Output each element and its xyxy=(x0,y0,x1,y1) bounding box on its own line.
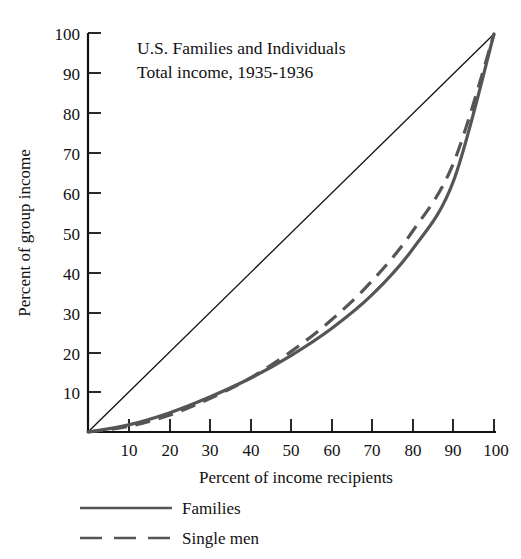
x-axis-ticks xyxy=(129,419,494,432)
x-tick-label: 40 xyxy=(243,441,260,460)
x-tick-label: 50 xyxy=(283,441,300,460)
y-axis-title: Percent of group income xyxy=(15,149,34,317)
x-tick-label: 100 xyxy=(483,441,509,460)
equality-line xyxy=(88,34,494,432)
x-axis-tick-labels: 10 20 30 40 50 60 70 80 90 100 xyxy=(121,441,509,460)
chart-title-block: U.S. Families and Individuals Total inco… xyxy=(137,38,346,82)
y-axis-ticks xyxy=(88,33,101,392)
chart-subtitle: Total income, 1935-1936 xyxy=(137,62,313,82)
chart-title: U.S. Families and Individuals xyxy=(137,38,346,58)
x-tick-label: 10 xyxy=(121,441,138,460)
y-tick-label: 80 xyxy=(63,105,80,124)
y-tick-label: 60 xyxy=(63,185,80,204)
x-tick-label: 30 xyxy=(202,441,219,460)
y-tick-label: 50 xyxy=(63,225,80,244)
x-tick-label: 80 xyxy=(405,441,422,460)
x-tick-label: 70 xyxy=(364,441,381,460)
y-tick-label: 70 xyxy=(63,145,80,164)
x-tick-label: 60 xyxy=(324,441,341,460)
y-tick-label: 100 xyxy=(55,25,81,44)
y-tick-label: 20 xyxy=(63,345,80,364)
lorenz-curve-figure: 100 90 80 70 60 50 40 30 20 10 10 xyxy=(0,0,521,559)
x-tick-label: 90 xyxy=(445,441,462,460)
chart-legend: Families Single men xyxy=(80,499,259,548)
legend-label-single-men: Single men xyxy=(182,529,259,548)
x-tick-label: 20 xyxy=(162,441,179,460)
y-tick-label: 90 xyxy=(63,65,80,84)
y-tick-label: 10 xyxy=(63,384,80,403)
y-tick-label: 40 xyxy=(63,265,80,284)
legend-label-families: Families xyxy=(182,499,241,518)
x-axis-title: Percent of income recipients xyxy=(199,468,393,487)
chart-svg: 100 90 80 70 60 50 40 30 20 10 10 xyxy=(0,0,521,559)
y-tick-label: 30 xyxy=(63,305,80,324)
y-axis-tick-labels: 100 90 80 70 60 50 40 30 20 10 xyxy=(55,25,81,403)
